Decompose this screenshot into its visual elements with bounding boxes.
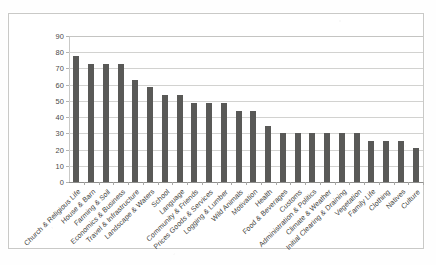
bar xyxy=(73,56,79,182)
bar xyxy=(309,133,315,182)
x-axis-tick-mark xyxy=(364,182,365,185)
bar xyxy=(280,133,286,182)
bar-slot xyxy=(202,36,217,182)
bar xyxy=(236,111,242,182)
y-axis-tick-mark xyxy=(66,182,69,183)
y-axis-tick-label: 90 xyxy=(56,32,64,41)
bar xyxy=(191,103,197,182)
x-axis-tick-mark xyxy=(217,182,218,185)
x-axis-tick-mark xyxy=(305,182,306,185)
bar xyxy=(147,87,153,182)
bar xyxy=(354,133,360,182)
bar-slot xyxy=(143,36,158,182)
bar-slot xyxy=(84,36,99,182)
y-axis-tick-label: 30 xyxy=(56,129,64,138)
x-axis-tick-mark xyxy=(143,182,144,185)
x-axis-tick-mark xyxy=(202,182,203,185)
bar-series xyxy=(69,36,423,182)
chart-frame: 0102030405060708090 Church & Religious L… xyxy=(8,13,424,249)
bar-slot xyxy=(69,36,84,182)
bar-slot xyxy=(113,36,128,182)
bar-slot xyxy=(305,36,320,182)
y-axis-tick-label: 40 xyxy=(56,113,64,122)
plot-area: 0102030405060708090 xyxy=(69,36,423,182)
y-axis-tick-label: 10 xyxy=(56,161,64,170)
y-axis-tick-label: 20 xyxy=(56,145,64,154)
bar-slot xyxy=(261,36,276,182)
bar-slot xyxy=(128,36,143,182)
bar xyxy=(88,64,94,182)
bar xyxy=(162,95,168,182)
x-axis-tick-mark xyxy=(99,182,100,185)
bar-slot xyxy=(349,36,364,182)
bar-slot xyxy=(217,36,232,182)
x-axis-tick-mark xyxy=(84,182,85,185)
bar xyxy=(413,148,419,182)
bar xyxy=(383,141,389,182)
bar xyxy=(368,141,374,182)
bar xyxy=(103,64,109,182)
x-axis-tick-mark xyxy=(423,182,424,185)
bar xyxy=(324,133,330,182)
bar-slot xyxy=(379,36,394,182)
x-axis-tick-mark xyxy=(113,182,114,185)
x-axis-tick-mark xyxy=(349,182,350,185)
bar xyxy=(295,133,301,182)
x-axis-tick-mark xyxy=(128,182,129,185)
y-axis-tick-label: 50 xyxy=(56,96,64,105)
bar xyxy=(250,111,256,182)
x-axis-tick-mark xyxy=(408,182,409,185)
bar-slot xyxy=(158,36,173,182)
x-axis-tick-mark xyxy=(320,182,321,185)
x-axis-tick-mark xyxy=(261,182,262,185)
bar xyxy=(339,133,345,182)
figure-container: 0102030405060708090 Church & Religious L… xyxy=(0,0,436,265)
bar xyxy=(221,103,227,182)
bar xyxy=(132,80,138,182)
bar-slot xyxy=(290,36,305,182)
x-axis-tick-mark xyxy=(158,182,159,185)
x-axis-tick-mark xyxy=(335,182,336,185)
x-axis-tick-mark xyxy=(231,182,232,185)
bar-slot xyxy=(408,36,423,182)
x-axis-tick-mark xyxy=(172,182,173,185)
bar xyxy=(206,103,212,182)
bar-slot xyxy=(335,36,350,182)
bar-slot xyxy=(172,36,187,182)
y-axis-tick-label: 0 xyxy=(60,178,64,187)
bar-slot xyxy=(320,36,335,182)
x-axis-tick-mark xyxy=(246,182,247,185)
x-axis-tick-mark xyxy=(379,182,380,185)
bar-slot xyxy=(364,36,379,182)
bar-slot xyxy=(394,36,409,182)
bar-slot xyxy=(99,36,114,182)
bar xyxy=(398,141,404,182)
y-axis-tick-label: 60 xyxy=(56,80,64,89)
x-axis-tick-mark xyxy=(290,182,291,185)
bar xyxy=(265,126,271,182)
bar-slot xyxy=(276,36,291,182)
bar-slot xyxy=(246,36,261,182)
y-axis-tick-label: 80 xyxy=(56,48,64,57)
x-axis-tick-mark xyxy=(394,182,395,185)
bar xyxy=(177,95,183,182)
bar-slot xyxy=(231,36,246,182)
x-axis-tick-mark xyxy=(276,182,277,185)
y-axis-tick-label: 70 xyxy=(56,64,64,73)
bar-slot xyxy=(187,36,202,182)
bar xyxy=(118,64,124,182)
x-axis-tick-mark xyxy=(187,182,188,185)
